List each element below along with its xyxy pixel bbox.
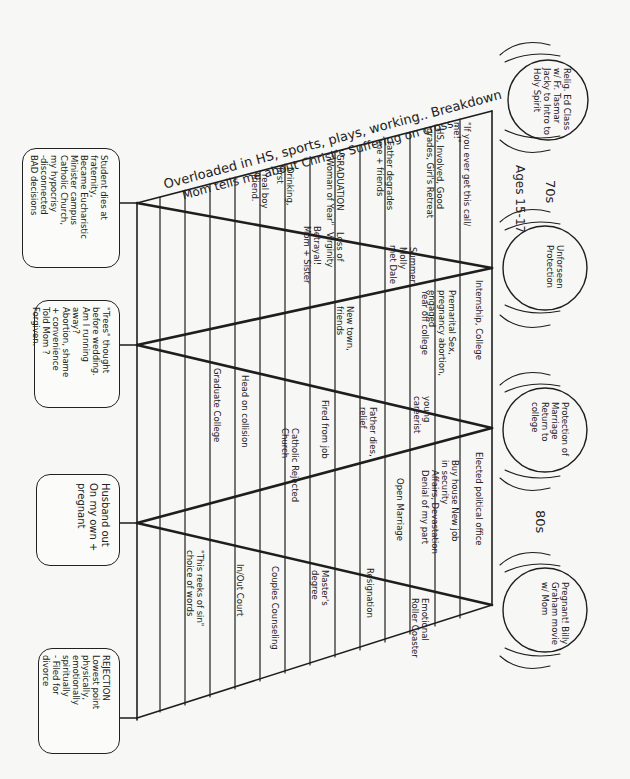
- ages-label: Ages 15-17: [515, 165, 525, 233]
- entry-s2-0: Internship, College: [474, 280, 484, 430]
- box-student-dies-text: Student dies at fraternity, Became Eucha…: [29, 155, 109, 263]
- entry-s2-5: Loss of Virginity: [325, 232, 345, 292]
- circle-text-pregnant: Pregnant! Billy Graham movie w/ Mom: [540, 582, 570, 647]
- circle-text-unforeseen-protection: Unforseen Protection: [545, 245, 565, 305]
- entry-s2-4: met Dale: [388, 245, 398, 285]
- entry-s1-5: real boy friend.: [250, 174, 270, 224]
- entry-s1-4: Drinking, first: [275, 167, 295, 217]
- caption-line-2: Mom tells me about Christ's Suffering on…: [181, 115, 459, 202]
- box-trees-thought-text: "Trees" thought before wedding. Am I run…: [31, 307, 111, 403]
- entry-s3-4: Fired from job: [320, 400, 330, 510]
- box-rejection-text: REJECTION Lowest point physically, emoti…: [41, 655, 111, 747]
- entry-s3-7: Graduate College: [212, 368, 222, 488]
- entry-s2-2: Year off college: [420, 290, 430, 400]
- box-rejection: REJECTION Lowest point physically, emoti…: [38, 648, 120, 754]
- entry-s2-6: Betrayal! Mom + Sister: [302, 226, 322, 286]
- entry-s3-2: young careerist: [412, 396, 432, 436]
- entry-s4-0: Affairs, Devastation Denial of my part: [420, 470, 440, 580]
- entry-s1-1: HS, Involved, Good grades, Girl's Retrea…: [425, 128, 445, 228]
- entry-s4-1: Open Marriage: [395, 478, 405, 568]
- entry-s3-0: Elected political office: [474, 452, 484, 582]
- entry-s3-1: Buy house New job in security: [440, 460, 460, 550]
- box-student-dies: Student dies at fraternity, Became Eucha…: [22, 148, 120, 268]
- box-trees-thought: "Trees" thought before wedding. Am I run…: [34, 300, 120, 408]
- entry-s1-3: GRADUATION "Woman of Year": [325, 154, 345, 234]
- decade-70s-label: 70s: [545, 180, 555, 203]
- box-husband-out: Husband out On my own + pregnant: [36, 474, 120, 566]
- entry-s3-5: Catholic Rejected Church: [280, 428, 300, 508]
- entry-s1-0: "If you ever get this call/ me!": [452, 122, 472, 242]
- entry-s4-2: Emotional Roller Coaster: [410, 598, 430, 658]
- entry-s4-6: In/Out Court: [235, 564, 245, 644]
- circle-text-protection-marriage: Protection of Marriage Return to college: [530, 402, 570, 467]
- entry-s2-3: Summer Molly: [398, 247, 418, 287]
- entry-s4-5: Couples Counseling: [270, 566, 280, 666]
- entry-s4-7: "This reeks of sin" choice of words: [185, 550, 205, 650]
- entry-s1-2: Father degrades me + friends: [375, 141, 395, 221]
- entry-s4-4: Master's degree: [310, 570, 330, 620]
- entry-s3-3: Father dies, relief: [358, 407, 378, 467]
- circle-text-religious-ed: Relig. Ed Class w/ Fr. Tasmar Jacky to I…: [532, 68, 572, 138]
- decade-80s-label: 80s: [535, 510, 545, 533]
- box-husband-out-text: Husband out On my own + pregnant: [75, 483, 111, 563]
- entry-s4-3: Resignation: [365, 568, 375, 638]
- entry-s2-7: New town, friends: [335, 306, 355, 366]
- entry-s2-1: Premarital Sex, pregnancy abortion, enga…: [427, 290, 457, 390]
- entry-s3-6: Head on collision: [240, 375, 250, 495]
